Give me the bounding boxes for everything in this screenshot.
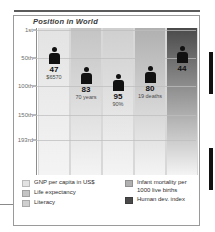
scrollbar-mark-lower[interactable] <box>209 148 213 190</box>
y-axis-tick-label: 1st <box>25 27 33 33</box>
data-sub-label: 19 deaths <box>137 93 163 99</box>
legend-swatch <box>22 190 30 197</box>
axis-tick <box>33 86 36 87</box>
person-body <box>49 53 60 64</box>
person-head <box>116 74 121 79</box>
legend-item[interactable]: Infant mortality per 1000 live births <box>125 179 215 194</box>
data-point-marker: 8019 deaths <box>137 66 163 99</box>
legend-swatch <box>125 197 133 204</box>
data-value-label: 47 <box>41 65 67 74</box>
person-head <box>148 66 153 71</box>
legend-column-left: GNP per capita in US$Life expectancyLite… <box>22 179 122 209</box>
data-sub-label: 90% <box>105 101 131 107</box>
person-head <box>84 67 89 72</box>
legend-item[interactable]: Human dev. index <box>125 196 215 204</box>
plot-area: 1st50th100th150th193rd 47$65708370 years… <box>36 28 200 175</box>
legend-swatch <box>125 180 133 187</box>
person-icon <box>144 66 156 83</box>
person-body <box>145 72 156 83</box>
legend-swatch <box>22 180 30 187</box>
y-axis-line <box>36 28 37 175</box>
person-icon <box>112 74 124 91</box>
chart-legend: GNP per capita in US$Life expectancyLite… <box>22 179 192 221</box>
gridline <box>36 140 196 141</box>
legend-item[interactable]: Literacy <box>22 199 122 207</box>
legend-item[interactable]: Life expectancy <box>22 189 122 197</box>
person-icon <box>48 47 60 64</box>
scrollbar-mark-upper[interactable] <box>209 52 213 94</box>
data-value-label: 83 <box>73 85 99 94</box>
data-sub-label: 70 years <box>73 94 99 100</box>
bar-column <box>134 28 166 175</box>
legend-item[interactable]: GNP per capita in US$ <box>22 179 122 187</box>
person-icon <box>176 46 188 63</box>
legend-column-right: Infant mortality per 1000 live birthsHum… <box>125 179 215 206</box>
data-value-label: 95 <box>105 92 131 101</box>
bar-column <box>70 28 102 175</box>
y-axis-tick-label: 50th <box>21 55 33 61</box>
data-point-marker: 9590% <box>105 74 131 107</box>
data-value-label: 80 <box>137 84 163 93</box>
y-axis-tick-label: 100th <box>18 83 33 89</box>
person-head <box>180 46 185 51</box>
data-sub-label: $6570 <box>41 74 67 80</box>
y-axis-tick-label: 150th <box>18 112 33 118</box>
legend-label: Literacy <box>34 199 55 207</box>
chart-title: Position in World <box>33 17 98 26</box>
axis-tick <box>33 58 36 59</box>
legend-label: Life expectancy <box>34 189 76 197</box>
axis-tick <box>33 140 36 141</box>
axis-tick <box>33 115 36 116</box>
person-icon <box>80 67 92 84</box>
data-point-marker: 44 <box>169 46 195 73</box>
data-point-marker: 8370 years <box>73 67 99 100</box>
gridline <box>36 115 196 116</box>
y-axis-tick-label: 193rd <box>18 137 33 143</box>
gridline <box>36 30 196 31</box>
page-edge-rule <box>0 204 13 205</box>
legend-label: Infant mortality per 1000 live births <box>137 179 187 194</box>
legend-swatch <box>22 200 30 207</box>
legend-label: Human dev. index <box>137 196 185 204</box>
data-value-label: 44 <box>169 64 195 73</box>
legend-label: GNP per capita in US$ <box>34 179 95 187</box>
data-point-marker: 47$6570 <box>41 47 67 80</box>
axis-tick <box>33 30 36 31</box>
person-body <box>81 73 92 84</box>
person-head <box>52 47 57 52</box>
person-body <box>113 80 124 91</box>
person-body <box>177 52 188 63</box>
header-rule <box>14 10 200 12</box>
